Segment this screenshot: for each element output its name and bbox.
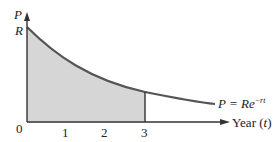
curve-equation-base: P = Re — [218, 96, 255, 111]
y-axis-arrow-icon — [24, 12, 30, 21]
tick-3-label: 3 — [141, 126, 148, 139]
origin-label: 0 — [16, 122, 23, 135]
y-intercept-label: R — [15, 24, 23, 37]
tick-1-label: 1 — [62, 126, 69, 139]
x-axis-arrow-icon — [220, 119, 230, 125]
shaded-area — [27, 27, 145, 122]
x-axis-word: Year ( — [232, 115, 264, 130]
x-axis-close: ) — [267, 115, 271, 130]
curve-equation-label: P = Re−rt — [218, 97, 265, 110]
curve-equation-exponent: −rt — [255, 96, 266, 105]
y-axis-label: P — [14, 8, 22, 21]
x-axis-label: Year (t) — [232, 116, 272, 129]
tick-2-label: 2 — [101, 126, 108, 139]
